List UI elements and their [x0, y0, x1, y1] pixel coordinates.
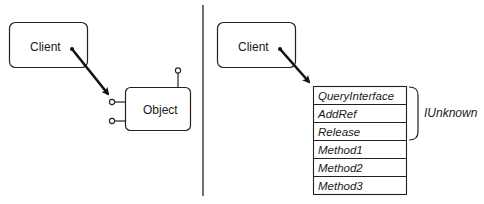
- diagram-canvas: [0, 0, 484, 204]
- vtable-row-addref: AddRef: [313, 105, 406, 123]
- arrow-client-to-object: [72, 49, 108, 94]
- iunknown-brace: [409, 87, 418, 140]
- interface-lollipop-top-icon: [175, 68, 180, 73]
- vtable-row-release: Release: [313, 123, 406, 141]
- client-label-left: Client: [30, 40, 61, 54]
- interface-lollipop-left-1-icon: [109, 99, 114, 104]
- object-label: Object: [143, 103, 178, 117]
- interface-lollipop-left-2-icon: [109, 118, 114, 123]
- vtable-row-method1: Method1: [313, 141, 406, 159]
- vtable-row-method2: Method2: [313, 159, 406, 177]
- client-label-right: Client: [238, 40, 269, 54]
- vtable-row-method3: Method3: [313, 177, 406, 195]
- vtable-row-queryinterface: QueryInterface: [313, 87, 406, 105]
- iunknown-label: IUnknown: [424, 106, 477, 120]
